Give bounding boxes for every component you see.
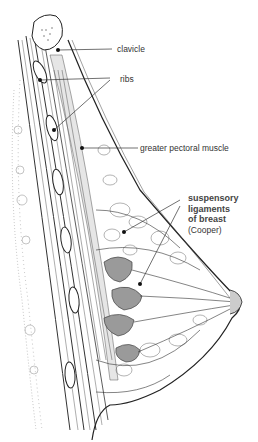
label-suspensory-ligaments: suspensory ligaments of breast (Cooper) xyxy=(188,193,239,235)
pectoral-muscle xyxy=(50,55,118,380)
label-greater-pectoral-muscle: greater pectoral muscle xyxy=(140,143,229,153)
label-ribs: ribs xyxy=(120,74,134,84)
clavicle-bone xyxy=(32,15,62,50)
label-suspensory-line3: of breast xyxy=(188,214,239,225)
label-clavicle: clavicle xyxy=(117,44,145,54)
label-suspensory-line4: (Cooper) xyxy=(188,225,239,235)
subcutaneous-fat xyxy=(12,80,42,430)
label-suspensory-line2: ligaments xyxy=(188,204,239,215)
label-suspensory-line1: suspensory xyxy=(188,193,239,204)
nipple xyxy=(230,290,242,314)
